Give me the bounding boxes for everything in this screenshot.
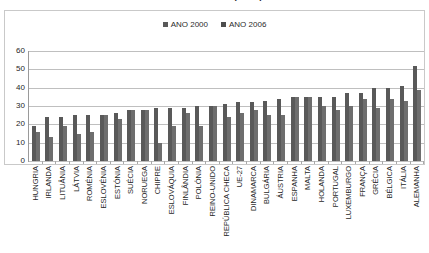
bar-group <box>56 51 70 161</box>
x-tick <box>233 161 247 165</box>
x-label-cell: GRÉCIA <box>370 166 384 253</box>
x-axis-category-label: ESPANHA <box>291 166 299 201</box>
x-axis-category-label: ÁUSTRIA <box>277 166 285 199</box>
x-axis-category-label: ROMÉNIA <box>87 166 95 201</box>
bar <box>118 119 122 161</box>
bar <box>322 106 326 161</box>
x-label-cell: NORUEGA <box>138 166 152 253</box>
bar <box>404 101 408 162</box>
x-label-cell: UE-27 <box>233 166 247 253</box>
bar-group <box>206 51 220 161</box>
x-axis-labels: HUNGRIAIRLANDALITUÂNIALÁTVIAROMÉNIAESLOV… <box>29 166 424 253</box>
page-title: das sociedades (em %) <box>0 0 429 1</box>
x-tick <box>302 161 316 165</box>
x-axis-category-label: NORUEGA <box>141 166 149 204</box>
x-tick <box>411 161 425 165</box>
x-tick <box>220 161 234 165</box>
x-axis-category-label: POLÓNIA <box>196 166 204 199</box>
y-tick-label-40: 40 <box>3 84 25 92</box>
x-tick <box>29 161 43 165</box>
bar-group <box>356 51 370 161</box>
x-tick <box>370 161 384 165</box>
x-axis-category-label: UE-27 <box>236 166 244 187</box>
x-tick <box>84 161 98 165</box>
bar-group <box>411 51 425 161</box>
bar-group <box>97 51 111 161</box>
bar-group <box>329 51 343 161</box>
x-label-cell: ESLOVÁQUIA <box>165 166 179 253</box>
bar-group <box>29 51 43 161</box>
y-tick-label-10: 10 <box>3 139 25 147</box>
bar-group <box>247 51 261 161</box>
x-label-cell: DINAMARCA <box>247 166 261 253</box>
x-tick <box>97 161 111 165</box>
x-axis-category-label: LITUÂNIA <box>59 166 67 200</box>
bar-group <box>179 51 193 161</box>
bar-group <box>274 51 288 161</box>
x-tick <box>179 161 193 165</box>
x-label-cell: ITÁLIA <box>397 166 411 253</box>
bar <box>186 113 190 161</box>
x-axis-category-label: ALEMANHA <box>414 166 422 207</box>
bar-group <box>288 51 302 161</box>
bar <box>63 126 67 161</box>
bar <box>227 117 231 161</box>
x-label-cell: FINLÂNDIA <box>179 166 193 253</box>
x-axis-category-label: IRLANDA <box>46 166 54 199</box>
bar <box>240 113 244 161</box>
chart-title-strip: das sociedades (em %) <box>0 0 429 9</box>
x-label-cell: BÉLGICA <box>383 166 397 253</box>
x-label-cell: ÁUSTRIA <box>274 166 288 253</box>
bar-group <box>370 51 384 161</box>
x-tick <box>397 161 411 165</box>
bar-group <box>220 51 234 161</box>
x-tick <box>356 161 370 165</box>
bar <box>77 134 81 162</box>
bar <box>199 126 203 161</box>
bar <box>417 90 421 162</box>
x-axis-category-label: HUNGRIA <box>32 166 40 201</box>
x-label-cell: PORTUGAL <box>329 166 343 253</box>
x-tick <box>111 161 125 165</box>
y-tick-label-0: 0 <box>3 157 25 165</box>
bar <box>267 115 271 161</box>
bar <box>363 99 367 161</box>
x-axis-category-label: LUXEMBURGO <box>345 166 353 219</box>
bar <box>213 106 217 161</box>
bar <box>158 143 162 161</box>
x-axis-category-label: FRANÇA <box>359 166 367 197</box>
bar <box>49 137 53 161</box>
x-tick <box>274 161 288 165</box>
bar-group <box>84 51 98 161</box>
bar-group <box>302 51 316 161</box>
x-label-cell: REPÚBLICA CHECA <box>220 166 234 253</box>
bar-group <box>315 51 329 161</box>
x-label-cell: LÁTVIA <box>70 166 84 253</box>
bar <box>104 115 108 161</box>
x-axis-category-label: BULGÁRIA <box>264 166 272 204</box>
x-label-cell: POLÓNIA <box>193 166 207 253</box>
x-label-cell: BULGÁRIA <box>261 166 275 253</box>
x-label-cell: HUNGRIA <box>29 166 43 253</box>
x-tick <box>165 161 179 165</box>
bar-group <box>43 51 57 161</box>
bar <box>376 108 380 161</box>
bar-group <box>152 51 166 161</box>
bar <box>90 132 94 161</box>
x-tick <box>247 161 261 165</box>
x-label-cell: SUÉCIA <box>124 166 138 253</box>
x-label-cell: ROMÉNIA <box>84 166 98 253</box>
x-tick <box>206 161 220 165</box>
x-axis-category-label: BÉLGICA <box>386 166 394 199</box>
bar-group <box>111 51 125 161</box>
x-tick <box>329 161 343 165</box>
bar-group <box>165 51 179 161</box>
bar-group <box>233 51 247 161</box>
bar <box>36 132 40 161</box>
x-tick <box>43 161 57 165</box>
x-label-cell: ESPANHA <box>288 166 302 253</box>
x-label-cell: ESLOVÉNIA <box>97 166 111 253</box>
bar <box>295 97 299 161</box>
bar-group <box>70 51 84 161</box>
bar-group <box>397 51 411 161</box>
